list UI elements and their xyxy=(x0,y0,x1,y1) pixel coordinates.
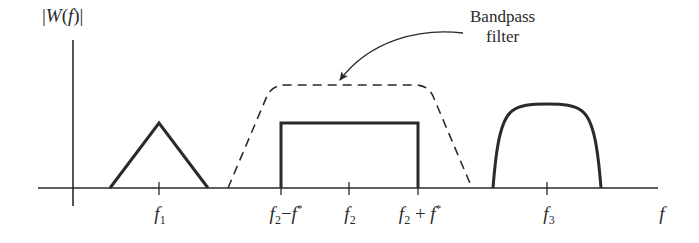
tick-label-f1: f1 xyxy=(154,203,165,225)
bandpass-annotation: Bandpass filter xyxy=(470,7,535,47)
x-axis-label: f xyxy=(659,203,664,225)
rounded-spectrum xyxy=(493,104,601,188)
tick-label-f2-minus-fstar: f2−f* xyxy=(270,203,303,225)
annotation-arrow xyxy=(340,32,463,80)
bandpass-filter-curve xyxy=(228,85,472,188)
tick-sub: 2 xyxy=(275,213,281,227)
tick-op: − xyxy=(281,203,292,224)
x-axis-var: f xyxy=(659,203,664,224)
rectangular-spectrum xyxy=(281,123,418,188)
y-axis-label: |W(f)| xyxy=(42,5,83,27)
paren-close: )| xyxy=(73,5,83,26)
w-symbol: W xyxy=(46,5,62,26)
tick-sub: 1 xyxy=(160,213,166,227)
tick-var: f xyxy=(430,203,435,224)
tick-label-f2-plus-fstar: f2 + f* xyxy=(399,203,441,225)
tick-sup: * xyxy=(436,202,442,214)
tick-label-f3: f3 xyxy=(543,203,554,225)
tick-op: + xyxy=(415,203,426,224)
tick-label-f2: f2 xyxy=(344,203,355,225)
tick-sub: 3 xyxy=(549,213,555,227)
tick-sub: 2 xyxy=(404,213,410,227)
triangle-spectrum xyxy=(110,123,208,188)
annotation-line-1: Bandpass xyxy=(470,7,535,27)
annotation-line-2: filter xyxy=(470,27,535,47)
tick-sub: 2 xyxy=(350,213,356,227)
tick-sup: * xyxy=(297,202,303,214)
